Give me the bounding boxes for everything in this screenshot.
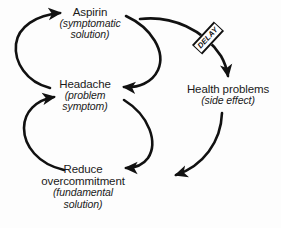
node-headache-sub-line2: symptom) [30,101,140,112]
node-aspirin[interactable]: Aspirin (symptomatic solution) [30,6,150,40]
node-reduce-title-line1: Reduce [8,163,158,175]
node-health-problems-sub-line1: (side effect) [176,95,280,106]
node-reduce-overcommitment[interactable]: Reduce overcommitment (fundamental solut… [8,163,158,210]
node-reduce-sub-line1: (fundamental [8,187,158,198]
diagram-canvas: Aspirin (symptomatic solution) Headache … [0,0,281,228]
node-headache[interactable]: Headache (problem symptom) [30,78,140,112]
node-aspirin-sub-line2: solution) [30,29,150,40]
link-health-problems-to-reduce [176,113,222,175]
node-reduce-sub-line2: solution) [8,199,158,210]
node-health-problems[interactable]: Health problems (side effect) [176,83,280,106]
